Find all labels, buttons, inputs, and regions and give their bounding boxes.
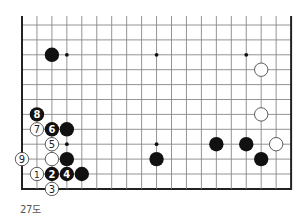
- white-stone: [45, 152, 58, 165]
- black-stone-move-2: 2: [45, 167, 59, 181]
- move-number: 4: [63, 169, 70, 180]
- star-point: [155, 53, 159, 57]
- move-number: 5: [49, 139, 55, 150]
- white-stone-move-9: 9: [15, 152, 28, 165]
- white-stone-move-3: 3: [45, 182, 58, 195]
- move-number: 6: [48, 124, 55, 135]
- star-point: [244, 53, 248, 57]
- black-stone: [75, 167, 89, 181]
- move-number: 7: [34, 124, 40, 135]
- star-point: [65, 142, 69, 146]
- move-number: 3: [49, 184, 55, 195]
- black-stone-move-4: 4: [60, 167, 74, 181]
- black-stone: [60, 152, 74, 166]
- star-point: [155, 142, 159, 146]
- go-board: 876591243: [0, 0, 308, 200]
- black-stone: [209, 137, 223, 151]
- diagram-caption: 27도: [20, 201, 41, 216]
- white-stone: [255, 63, 268, 76]
- black-stone-move-6: 6: [45, 122, 59, 136]
- move-number: 1: [34, 170, 40, 180]
- black-stone: [149, 152, 163, 166]
- white-stone: [269, 138, 282, 151]
- white-stone-move-1: 1: [30, 167, 43, 180]
- white-stone: [255, 108, 268, 121]
- move-number: 9: [19, 154, 25, 165]
- white-stone-move-7: 7: [30, 123, 43, 136]
- move-number: 8: [33, 109, 40, 120]
- white-stone-move-5: 5: [45, 138, 58, 151]
- black-stone: [45, 48, 59, 62]
- black-stone: [254, 152, 268, 166]
- move-number: 2: [48, 169, 55, 180]
- black-stone: [60, 122, 74, 136]
- star-point: [65, 53, 69, 57]
- black-stone-move-8: 8: [30, 107, 44, 121]
- black-stone: [239, 137, 253, 151]
